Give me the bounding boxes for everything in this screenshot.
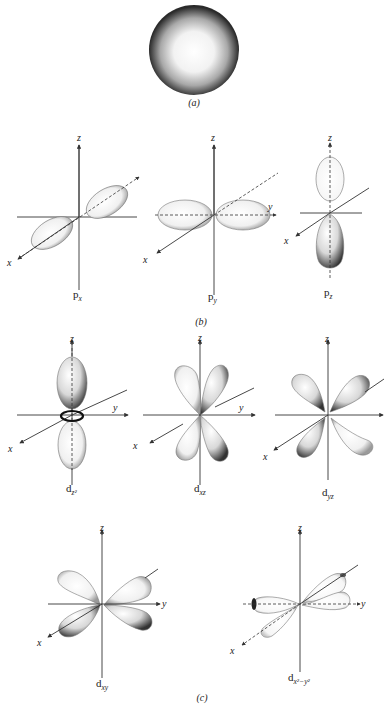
py-label: py <box>208 290 218 305</box>
pz-z-label: z <box>327 132 332 143</box>
dx2y2-y-label: y <box>360 598 366 609</box>
dxy-y-label: y <box>161 598 167 609</box>
dxz-y-label: y <box>238 402 244 413</box>
caption-c: (c) <box>196 692 208 704</box>
px-label: px <box>73 288 83 303</box>
caption-b: (b) <box>195 316 207 328</box>
dz2-z-label: z <box>69 333 74 344</box>
pz-x-label: x <box>283 235 289 246</box>
dz2-x-label: x <box>7 443 13 454</box>
dz2-y-label: y <box>112 402 118 413</box>
dx2y2-label: dx²−y² <box>288 671 310 686</box>
pz-label: pz <box>324 286 333 301</box>
px-orbital <box>17 145 139 290</box>
s-orbital <box>149 5 239 95</box>
dxz-z-label: z <box>197 332 202 343</box>
py-orbital <box>155 145 278 295</box>
dxy-z-label: z <box>99 522 104 533</box>
orbital-figure: (a) z x px z y x py (b) z x pz <box>0 0 388 710</box>
dxy-orbital <box>48 530 160 678</box>
py-y-label: y <box>267 201 273 212</box>
dxy-x-label: x <box>36 637 42 648</box>
dz2-orbital <box>17 340 128 485</box>
dx2y2-x-label: x <box>229 645 235 656</box>
dxz-x-label: x <box>132 440 138 451</box>
dyz-orbital <box>274 340 384 480</box>
pz-orbital <box>296 143 369 280</box>
dyz-x-label: x <box>262 451 268 462</box>
caption-a: (a) <box>188 97 200 109</box>
dyz-z-label: z <box>324 333 329 344</box>
py-x-label: x <box>142 254 148 265</box>
px-x-label: x <box>6 257 12 268</box>
dyz-label: dyz <box>322 486 334 501</box>
dx2y2-orbital <box>242 530 360 672</box>
dxy-label: dxy <box>96 677 109 692</box>
dx2y2-z-label: z <box>297 522 302 533</box>
py-z-label: z <box>210 132 215 143</box>
px-z-label: z <box>76 132 81 143</box>
